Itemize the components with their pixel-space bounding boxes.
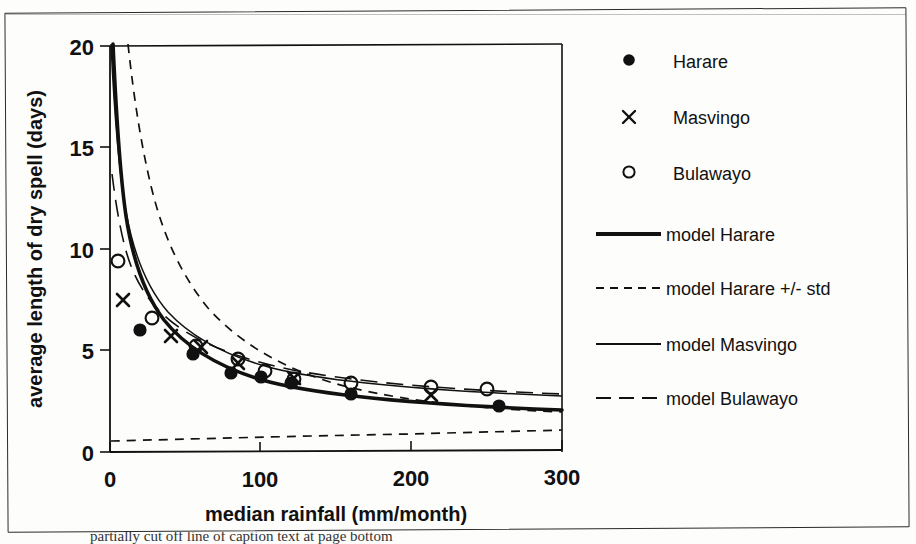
legend-label-masvingo[interactable]: Masvingo [673, 108, 750, 128]
curve-model-harare-minus-std [111, 430, 562, 441]
legend-label-model-harare-std[interactable]: model Harare +/- std [666, 279, 831, 299]
data-point [284, 376, 297, 389]
legend: Harare Masvingo Bulawayo model Harare mo… [596, 52, 831, 409]
data-point [133, 323, 146, 336]
data-point [224, 366, 237, 379]
data-point [112, 255, 125, 268]
legend-marker-open-circle [623, 166, 634, 177]
x-tick-label: 200 [393, 466, 430, 491]
data-point [165, 330, 177, 342]
chart-svg: 20 15 10 5 0 0 100 200 300 median rainfa… [0, 0, 916, 544]
cropped-caption-text: partially cut off line of caption text a… [90, 532, 870, 544]
legend-label-harare[interactable]: Harare [673, 52, 728, 72]
data-point [186, 347, 199, 360]
y-axis-label: average length of dry spell (days) [24, 90, 46, 408]
x-axis-label: median rainfall (mm/month) [205, 503, 467, 525]
page-canvas: 20 15 10 5 0 0 100 200 300 median rainfa… [0, 0, 916, 544]
data-point [254, 370, 267, 383]
y-tick-labels: 20 15 10 5 0 [70, 35, 94, 466]
y-tick-label: 20 [70, 35, 94, 60]
legend-label-model-harare[interactable]: model Harare [666, 225, 775, 245]
series-harare-points [133, 323, 505, 412]
y-tick-label: 0 [82, 441, 94, 466]
chart-figure: 20 15 10 5 0 0 100 200 300 median rainfa… [0, 0, 916, 544]
x-tick-label: 300 [544, 465, 581, 490]
legend-label-model-bulawayo[interactable]: model Bulawayo [666, 389, 798, 409]
data-point [344, 387, 357, 400]
legend-label-model-masvingo[interactable]: model Masvingo [666, 335, 797, 355]
curve-model-harare [113, 44, 562, 410]
x-tick-label: 100 [242, 467, 279, 492]
y-tick-label: 15 [70, 136, 94, 161]
data-point [425, 389, 437, 401]
data-point [146, 312, 159, 325]
curve-model-bulawayo [112, 174, 562, 394]
y-tick-label: 5 [82, 339, 94, 364]
data-point [117, 294, 129, 306]
curve-model-masvingo [111, 44, 562, 396]
legend-marker-filled-circle [623, 54, 635, 66]
cropped-caption: partially cut off line of caption text a… [90, 532, 870, 544]
x-tick-labels: 0 100 200 300 [104, 465, 580, 492]
data-point [481, 383, 494, 396]
data-point [492, 399, 505, 412]
y-axis-ticks [100, 46, 110, 452]
x-tick-label: 0 [104, 467, 116, 492]
legend-label-bulawayo[interactable]: Bulawayo [673, 164, 751, 184]
y-tick-label: 10 [70, 238, 94, 263]
legend-marker-cross [623, 111, 635, 123]
